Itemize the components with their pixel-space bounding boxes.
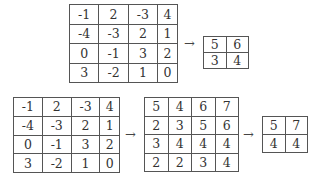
matrix-cell: 1: [100, 116, 120, 135]
bottom-input-matrix: -1 2 -3 4 -4 -3 2 1 0 -1 3 2 3 -2 1 0: [13, 97, 120, 173]
matrix-row: 2 3 5 6: [145, 116, 239, 135]
matrix-cell: -2: [42, 154, 71, 173]
matrix-row: 4 4: [263, 135, 308, 153]
matrix-cell: -1: [99, 44, 128, 64]
matrix-row: -1 2 -3 4: [70, 5, 178, 25]
right-arrow-icon: →: [125, 128, 136, 141]
matrix-cell: 2: [99, 5, 128, 25]
matrix-cell: 3: [70, 63, 99, 83]
matrix-row: 0 -1 3 2: [70, 44, 178, 64]
matrix-cell: 7: [285, 117, 308, 135]
matrix-cell: -3: [99, 24, 128, 44]
matrix-cell: -1: [14, 98, 43, 117]
matrix-cell: 3: [14, 154, 43, 173]
matrix-cell: 3: [128, 44, 157, 64]
matrix-cell: 5: [145, 98, 169, 117]
matrix-cell: -2: [99, 63, 128, 83]
matrix-cell: 5: [192, 116, 216, 135]
matrix-cell: 3: [145, 135, 169, 154]
matrix-row: -1 2 -3 4: [14, 98, 120, 117]
matrix-cell: 0: [158, 63, 178, 83]
matrix-cell: 4: [168, 98, 192, 117]
right-arrow-icon: →: [243, 128, 254, 141]
matrix-cell: 5: [263, 117, 286, 135]
matrix-cell: 2: [158, 44, 178, 64]
matrix-cell: -4: [14, 116, 43, 135]
matrix-cell: 3: [192, 153, 216, 172]
matrix-cell: 2: [128, 24, 157, 44]
matrix-row: 2 2 3 4: [145, 153, 239, 172]
matrix-cell: 4: [192, 135, 216, 154]
matrix-cell: 3: [168, 116, 192, 135]
matrix-cell: 1: [128, 63, 157, 83]
matrix-cell: 7: [215, 98, 239, 117]
matrix-cell: 3: [204, 53, 227, 69]
matrix-row: 3 4: [204, 53, 249, 69]
matrix-cell: 6: [215, 116, 239, 135]
matrix-cell: 1: [158, 24, 178, 44]
matrix-cell: 4: [263, 135, 286, 153]
top-output-matrix: 5 6 3 4: [203, 36, 249, 69]
matrix-cell: 5: [204, 37, 227, 53]
right-arrow-icon: →: [184, 37, 195, 50]
bottom-intermediate-matrix: 5 4 6 7 2 3 5 6 3 4 4 4 2 2 3 4: [144, 97, 239, 172]
matrix-cell: 2: [145, 153, 169, 172]
matrix-cell: 2: [100, 135, 120, 154]
bottom-output-matrix: 5 7 4 4: [262, 116, 308, 153]
matrix-cell: -4: [70, 24, 99, 44]
matrix-cell: 4: [215, 135, 239, 154]
matrix-cell: 1: [71, 154, 100, 173]
matrix-cell: 6: [226, 37, 249, 53]
matrix-cell: 4: [285, 135, 308, 153]
matrix-cell: -3: [128, 5, 157, 25]
matrix-cell: 0: [100, 154, 120, 173]
matrix-cell: -3: [71, 98, 100, 117]
matrix-row: 3 -2 1 0: [70, 63, 178, 83]
matrix-row: 5 6: [204, 37, 249, 53]
matrix-row: -4 -3 2 1: [14, 116, 120, 135]
matrix-cell: 6: [192, 98, 216, 117]
matrix-cell: 2: [71, 116, 100, 135]
matrix-cell: 2: [42, 98, 71, 117]
matrix-cell: 4: [215, 153, 239, 172]
matrix-cell: 2: [168, 153, 192, 172]
matrix-cell: -3: [42, 116, 71, 135]
matrix-cell: 4: [100, 98, 120, 117]
matrix-row: 5 7: [263, 117, 308, 135]
matrix-row: 5 4 6 7: [145, 98, 239, 117]
matrix-cell: 4: [226, 53, 249, 69]
matrix-cell: -1: [42, 135, 71, 154]
matrix-cell: -1: [70, 5, 99, 25]
top-input-matrix: -1 2 -3 4 -4 -3 2 1 0 -1 3 2 3 -2 1 0: [69, 4, 178, 83]
matrix-cell: 2: [145, 116, 169, 135]
matrix-cell: 3: [71, 135, 100, 154]
matrix-row: 0 -1 3 2: [14, 135, 120, 154]
matrix-row: 3 4 4 4: [145, 135, 239, 154]
matrix-cell: 4: [158, 5, 178, 25]
matrix-cell: 4: [168, 135, 192, 154]
matrix-cell: 0: [70, 44, 99, 64]
matrix-cell: 0: [14, 135, 43, 154]
matrix-row: -4 -3 2 1: [70, 24, 178, 44]
matrix-row: 3 -2 1 0: [14, 154, 120, 173]
